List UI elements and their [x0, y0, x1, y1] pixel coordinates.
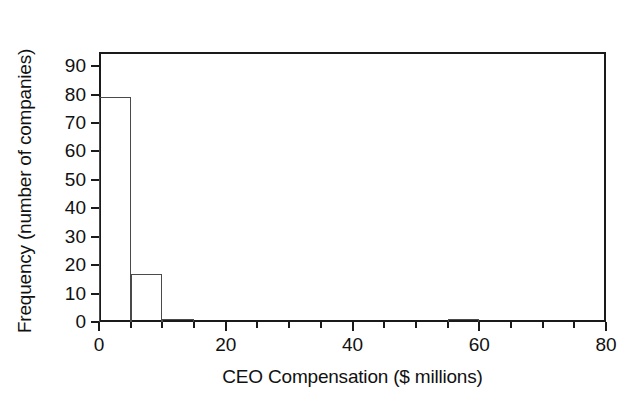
y-tick-label: 30	[42, 227, 86, 246]
y-tick-label: 70	[42, 113, 86, 132]
x-tick-mark-minor	[447, 322, 449, 328]
histogram-figure: Frequency (number of companies) 01020304…	[0, 0, 637, 408]
x-tick-label: 80	[576, 334, 636, 356]
x-tick-mark	[225, 322, 227, 331]
x-tick-mark-minor	[320, 322, 322, 328]
y-tick-label: 80	[42, 85, 86, 104]
y-tick-label: 60	[42, 141, 86, 160]
x-tick-mark-minor	[573, 322, 575, 328]
x-tick-mark	[605, 322, 607, 331]
x-tick-mark-minor	[510, 322, 512, 328]
x-tick-label: 60	[449, 334, 509, 356]
x-tick-mark-minor	[193, 322, 195, 328]
x-tick-mark-minor	[256, 322, 258, 328]
histogram-bar	[162, 319, 194, 322]
y-tick-label: 0	[42, 312, 86, 331]
x-tick-mark	[352, 322, 354, 331]
x-tick-label: 0	[69, 334, 129, 356]
x-tick-mark	[478, 322, 480, 331]
histogram-bar	[99, 97, 131, 322]
x-tick-mark-minor	[161, 322, 163, 328]
x-tick-mark	[98, 322, 100, 331]
x-tick-mark-minor	[288, 322, 290, 328]
histogram-bar	[131, 274, 163, 322]
x-tick-mark-minor	[542, 322, 544, 328]
y-tick-mark	[91, 65, 100, 67]
x-axis-title: CEO Compensation ($ millions)	[99, 366, 606, 388]
y-tick-mark	[91, 94, 100, 96]
histogram-bar	[448, 319, 480, 322]
y-tick-label: 20	[42, 255, 86, 274]
plot-area	[99, 52, 606, 322]
x-tick-mark-minor	[130, 322, 132, 328]
x-tick-label: 40	[323, 334, 383, 356]
x-tick-label: 20	[196, 334, 256, 356]
y-tick-label: 40	[42, 198, 86, 217]
x-tick-mark-minor	[383, 322, 385, 328]
y-tick-label: 10	[42, 284, 86, 303]
y-tick-label: 50	[42, 170, 86, 189]
x-tick-mark-minor	[415, 322, 417, 328]
y-tick-label: 90	[42, 56, 86, 75]
